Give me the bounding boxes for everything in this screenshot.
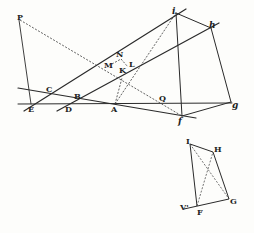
label-d: D	[65, 104, 72, 114]
label-g: g	[232, 100, 238, 110]
label-I: I	[186, 136, 190, 146]
label-i: i	[172, 6, 176, 16]
line-VG	[184, 199, 229, 209]
label-c: C	[46, 84, 52, 94]
label-b: B	[74, 91, 81, 101]
line-IH	[190, 144, 213, 152]
label-n: N	[116, 49, 123, 59]
label-k: K	[119, 65, 127, 75]
geometry-diagram: P E D A C B Q N M K L i h f g I H G F V'	[0, 0, 254, 233]
label-l: L	[129, 59, 135, 69]
line-ih	[176, 13, 211, 28]
label-h: h	[209, 20, 216, 30]
base-line	[18, 103, 232, 104]
label-a: A	[110, 104, 118, 114]
line-hg	[211, 28, 231, 102]
line-IF	[190, 144, 197, 206]
dotted-IG	[190, 144, 229, 199]
dotted-FH	[197, 152, 213, 206]
label-q: Q	[159, 93, 166, 103]
diagram-svg: P E D A C B Q N M K L i h f g I H G F V'	[0, 0, 254, 233]
label-H: H	[214, 144, 222, 154]
label-p: P	[17, 12, 23, 22]
label-e: E	[28, 104, 34, 114]
label-m: M	[104, 60, 113, 70]
dotted-mn	[112, 59, 121, 64]
label-F: F	[197, 207, 203, 217]
dotted-ai	[115, 13, 176, 104]
label-f: f	[177, 116, 184, 126]
dotted-ak	[115, 78, 122, 104]
label-G: G	[230, 196, 237, 206]
line-pe	[19, 20, 31, 104]
line-dh	[57, 23, 219, 111]
line-fg	[182, 102, 231, 116]
label-V: V'	[179, 202, 189, 212]
line-if	[176, 13, 182, 116]
line-HG	[213, 152, 229, 199]
